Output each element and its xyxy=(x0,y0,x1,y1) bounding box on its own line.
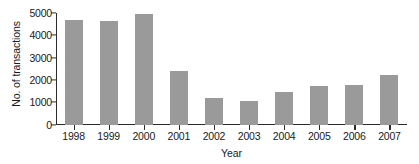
x-axis-tick-mark xyxy=(144,125,145,130)
bar-1998 xyxy=(65,20,83,125)
bar-2007 xyxy=(380,75,398,125)
x-axis-tick-mark xyxy=(284,125,285,130)
plot-area xyxy=(56,13,407,125)
x-axis-tick-mark xyxy=(354,125,355,130)
x-axis-title: Year xyxy=(56,147,407,159)
y-axis-tick-mark xyxy=(51,12,56,13)
y-axis-tick-mark xyxy=(51,124,56,125)
y-axis-tick-mark xyxy=(51,35,56,36)
bar-2001 xyxy=(170,71,188,125)
y-axis-tick-mark xyxy=(51,57,56,58)
x-axis-tick-mark xyxy=(74,125,75,130)
y-axis-tick-label: 3000 xyxy=(16,52,52,63)
y-axis-tick-mark xyxy=(51,102,56,103)
y-axis-tick-label: 5000 xyxy=(16,8,52,19)
bar-2000 xyxy=(135,14,153,124)
bar-2004 xyxy=(275,92,293,125)
x-axis-tick-mark xyxy=(179,125,180,130)
bar-chart: No. of transactions 01000200030004000500… xyxy=(0,0,419,164)
y-axis-tick-label: 0 xyxy=(16,119,52,130)
y-axis-tick-label: 4000 xyxy=(16,30,52,41)
x-axis-tick-mark xyxy=(214,125,215,130)
bar-2003 xyxy=(240,101,258,124)
bar-2005 xyxy=(310,86,328,125)
y-axis-tick-label: 1000 xyxy=(16,97,52,108)
y-axis-tick-mark xyxy=(51,79,56,80)
y-axis-tick-label: 2000 xyxy=(16,75,52,86)
bar-2002 xyxy=(205,98,223,125)
y-axis-tick-labels: 010002000300040005000 xyxy=(16,0,52,164)
x-axis-tick-mark xyxy=(249,125,250,130)
bar-1999 xyxy=(100,21,118,125)
bar-2006 xyxy=(345,85,363,125)
x-axis-tick-label: 2007 xyxy=(366,131,412,142)
x-axis-tick-mark xyxy=(319,125,320,130)
x-axis-tick-mark xyxy=(389,125,390,130)
x-axis-tick-mark xyxy=(109,125,110,130)
